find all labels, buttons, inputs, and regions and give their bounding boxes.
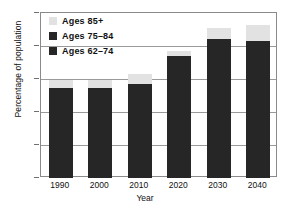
y-axis-tick-mark [34,144,39,145]
bar-stack [128,13,152,178]
y-axis-tick-mark [34,177,39,178]
gridline [41,112,276,113]
y-axis-tick-mark [34,45,39,46]
y-axis-tick-mark [34,111,39,112]
legend-label: Ages 62–74 [62,46,114,56]
bar-chart: Percentage of population 2520151050 1990… [0,0,290,207]
bar-segment-ages-85-plus [128,74,152,84]
legend-item: Ages 85+ [49,14,114,27]
legend-swatch-ages-62-74 [49,47,57,55]
bar-segment-ages-62-84 [88,88,112,178]
y-axis-title: Percentage of population [13,0,23,139]
x-axis-tick-label: 2040 [234,180,280,190]
gridline [41,145,276,146]
legend-swatch-ages-85-plus [49,17,57,25]
bar-segment-ages-85-plus [88,80,112,88]
y-axis-tick-mark [34,78,39,79]
legend-label: Ages 75–84 [62,31,114,41]
bar-segment-ages-85-plus [49,80,73,88]
bar-segment-ages-85-plus [246,25,270,41]
bar-segment-ages-85-plus [207,28,231,40]
bar-stack [246,13,270,178]
legend-label: Ages 85+ [62,16,103,26]
bar-segment-ages-62-84 [167,56,191,178]
bar-stack [167,13,191,178]
bar-segment-ages-62-84 [49,88,73,178]
y-axis-tick-mark [34,12,39,13]
bar-segment-ages-62-84 [128,84,152,178]
legend-item: Ages 62–74 [49,44,114,57]
legend-item: Ages 75–84 [49,29,114,42]
legend-swatch-ages-75-84 [49,32,57,40]
chart-legend: Ages 85+ Ages 75–84 Ages 62–74 [49,14,114,57]
bar-stack [207,13,231,178]
gridline [41,79,276,80]
bar-segment-ages-62-84 [207,39,231,178]
x-axis-title: Year [0,193,290,203]
bar-segment-ages-62-84 [246,41,270,178]
